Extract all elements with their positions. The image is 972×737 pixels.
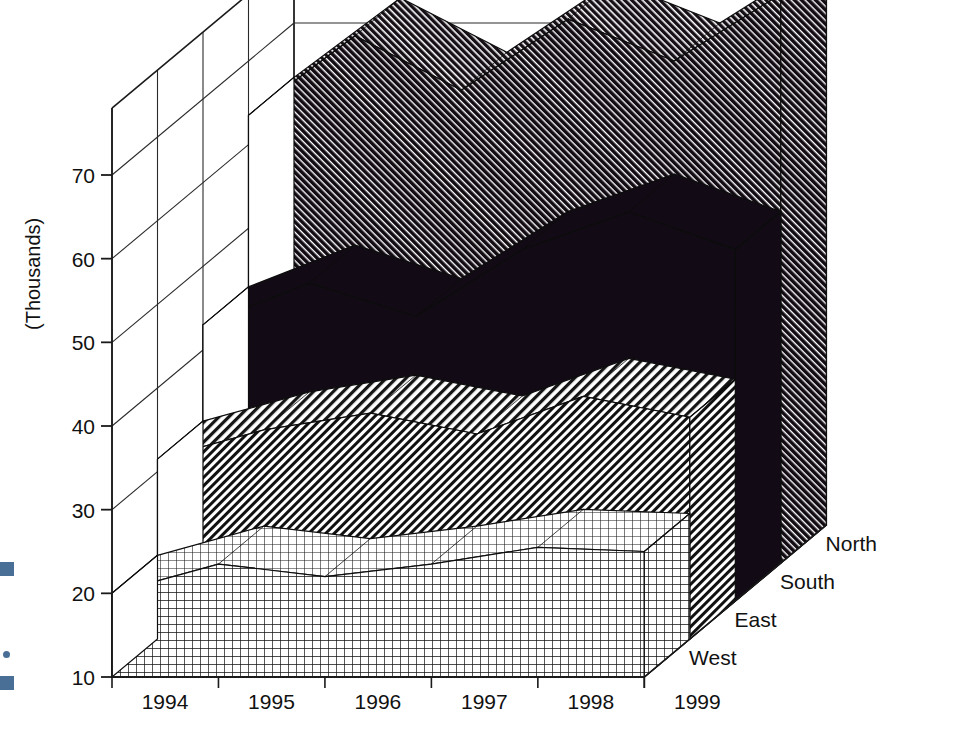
depth-axis-label-south: South — [780, 570, 835, 593]
x-tick-label: 1995 — [248, 690, 295, 713]
y-tick-label: 50 — [72, 331, 95, 354]
y-axis-title: (Thousands) — [22, 218, 45, 330]
x-tick-label: 1994 — [142, 690, 189, 713]
y-tick-label: 10 — [72, 666, 95, 689]
y-tick-label: 70 — [72, 164, 95, 187]
y-tick-label: 60 — [72, 248, 95, 271]
depth-axis-label-west: West — [689, 646, 737, 669]
x-tick-label: 1996 — [355, 690, 402, 713]
y-tick-label: 40 — [72, 415, 95, 438]
x-tick-label: 1999 — [674, 690, 721, 713]
y-tick-label: 20 — [72, 582, 95, 605]
area-chart-3d: 10203040506070199419951996199719981999No… — [0, 0, 972, 737]
y-axis-title-text: (Thousands) — [22, 218, 44, 330]
y-tick-label: 30 — [72, 499, 95, 522]
x-tick-label: 1997 — [461, 690, 508, 713]
chart-surfaces — [112, 0, 826, 677]
chart-canvas: 10203040506070199419951996199719981999No… — [0, 0, 972, 737]
depth-axis-label-east: East — [735, 608, 777, 631]
depth-axis-label-north: North — [826, 532, 877, 555]
x-tick-label: 1998 — [567, 690, 614, 713]
